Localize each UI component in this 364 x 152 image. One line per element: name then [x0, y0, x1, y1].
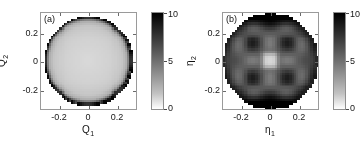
- panel-b-ytick-right-0: [315, 34, 318, 35]
- panel-a-xtick-top-2: [118, 13, 119, 16]
- panel-a-heatmap: [41, 13, 136, 109]
- panel-a: (a) -0.2 0 0.2 0.2 0 -0.2 Q1 Q2: [0, 0, 182, 152]
- panel-b-colorbar-label-1: 5: [350, 56, 355, 66]
- panel-b-xlabel-sub: 1: [271, 130, 275, 137]
- panel-a-ytick-label-2: -0.2: [22, 85, 38, 96]
- panel-a-ytick-2: [41, 91, 44, 92]
- panel-a-ytick-label-0: 0.2: [25, 28, 38, 39]
- panel-b-xtick-top-0: [242, 13, 243, 16]
- panel-b-ytick-label-1: 0: [215, 56, 220, 67]
- panel-b-ytick-0: [223, 34, 226, 35]
- panel-a-xtick-top-0: [60, 13, 61, 16]
- panel-b-ytick-label-0: 0.2: [207, 28, 220, 39]
- panel-a-ytick-right-0: [133, 34, 136, 35]
- panel-b-xtick-label-2: 0.2: [293, 112, 306, 123]
- panel-a-ytick-right-2: [133, 91, 136, 92]
- panel-b-colorbar: 10 5 0: [333, 12, 346, 110]
- panel-a-colorbar: 10 5 0: [151, 12, 164, 110]
- panel-a-xtick-label-0: -0.2: [51, 112, 67, 123]
- figure-container: (a) -0.2 0 0.2 0.2 0 -0.2 Q1 Q2: [0, 0, 364, 152]
- panel-a-xlabel: Q1: [82, 124, 94, 137]
- panel-a-ytick-label-1: 0: [33, 56, 38, 67]
- panel-b-colorbar-tick-1: [346, 61, 349, 62]
- panel-a-ylabel-sub: 2: [2, 55, 9, 59]
- panel-a-xtick-top-1: [89, 13, 90, 16]
- panel-b-axes: (b): [222, 12, 319, 110]
- panel-b-colorbar-label-0: 10: [350, 9, 360, 19]
- panel-a-xtick-1: [89, 106, 90, 109]
- panel-b-ytick-right-2: [315, 91, 318, 92]
- panel-a-xtick-2: [118, 106, 119, 109]
- panel-b-colorbar-tick-2: [346, 109, 349, 110]
- panel-a-ylabel: Q2: [0, 44, 9, 78]
- panel-b-ytick-1: [223, 62, 226, 63]
- panel-a-colorbar-label-1: 5: [168, 56, 173, 66]
- panel-b-xtick-top-2: [300, 13, 301, 16]
- panel-b-ylabel: η2: [184, 44, 197, 78]
- panel-b-colorbar-label-2: 0: [350, 103, 355, 113]
- panel-b-heatmap: [223, 13, 318, 109]
- panel-a-colorbar-label-0: 10: [168, 9, 178, 19]
- panel-b-ytick-2: [223, 91, 226, 92]
- panel-a-colorbar-tick-0: [164, 13, 167, 14]
- panel-b-xtick-2: [300, 106, 301, 109]
- panel-a-xlabel-sub: 1: [90, 130, 94, 137]
- panel-a-label: (a): [44, 14, 55, 24]
- panel-a-axes: (a): [40, 12, 137, 110]
- panel-b-ylabel-text: η: [184, 60, 195, 66]
- panel-a-colorbar-label-2: 0: [168, 103, 173, 113]
- panel-b-colorbar-gradient: [333, 12, 346, 110]
- panel-b-ytick-right-1: [315, 62, 318, 63]
- panel-a-xlabel-text: Q: [82, 124, 90, 135]
- panel-a-xtick-0: [60, 106, 61, 109]
- panel-a-ytick-1: [41, 62, 44, 63]
- panel-b-xtick-top-1: [271, 13, 272, 16]
- panel-b-ylabel-sub: 2: [190, 56, 197, 60]
- panel-b-xtick-0: [242, 106, 243, 109]
- panel-a-colorbar-gradient: [151, 12, 164, 110]
- panel-b-xlabel: η1: [265, 124, 275, 137]
- panel-b-xtick-label-0: -0.2: [233, 112, 249, 123]
- panel-b: (b) -0.2 0 0.2 0.2 0 -0.2 η1 η2 1: [182, 0, 364, 152]
- panel-b-xlabel-text: η: [265, 124, 271, 135]
- panel-b-ytick-label-2: -0.2: [204, 85, 220, 96]
- panel-b-colorbar-tick-0: [346, 13, 349, 14]
- panel-a-colorbar-tick-1: [164, 61, 167, 62]
- panel-a-xtick-label-2: 0.2: [111, 112, 124, 123]
- panel-b-xtick-1: [271, 106, 272, 109]
- panel-b-label: (b): [226, 14, 237, 24]
- panel-a-ylabel-text: Q: [0, 59, 7, 67]
- panel-a-ytick-right-1: [133, 62, 136, 63]
- panel-b-xtick-label-1: 0: [267, 112, 272, 123]
- panel-a-colorbar-tick-2: [164, 109, 167, 110]
- panel-a-ytick-0: [41, 34, 44, 35]
- panel-a-xtick-label-1: 0: [85, 112, 90, 123]
